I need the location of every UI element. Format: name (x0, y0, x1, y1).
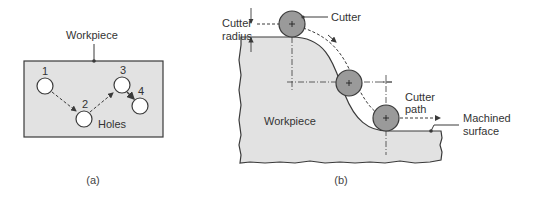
cutter-label: Cutter (331, 11, 361, 23)
hole-3-label: 3 (120, 64, 126, 76)
hole-2-label: 2 (82, 98, 88, 110)
cutter-path-arrow (328, 35, 336, 42)
hole-4-label: 4 (138, 85, 144, 97)
cutter-radius-label-2: radius (222, 30, 252, 42)
cutter-path-label-1: Cutter (405, 91, 435, 103)
cutter-2 (336, 70, 362, 96)
panel-b: Cutter Cutter radius Workpiece Cutter pa… (222, 8, 511, 186)
hole-2 (76, 111, 92, 127)
cutter-path-label-2: path (405, 103, 426, 115)
workpiece-label-b: Workpiece (264, 115, 316, 127)
caption-b: (b) (334, 174, 347, 186)
workpiece-label: Workpiece (66, 29, 118, 41)
panel-a: Workpiece 1 2 3 4 Holes (a) (24, 29, 163, 186)
cutter-1 (279, 11, 305, 37)
cutter-3 (373, 105, 399, 131)
hole-1-label: 1 (42, 65, 48, 77)
machined-surface-label-2: surface (463, 125, 499, 137)
hole-1 (37, 78, 53, 94)
cutter-radius-label-1: Cutter (222, 17, 252, 29)
hole-4 (132, 98, 148, 114)
leader-dot (92, 59, 96, 63)
hole-3 (114, 77, 130, 93)
diagram-canvas: Workpiece 1 2 3 4 Holes (a) (0, 0, 533, 199)
caption-a: (a) (86, 174, 99, 186)
machined-surface-leader (431, 125, 459, 131)
machined-surface-dot (429, 129, 433, 133)
cutter-leader-dot (301, 15, 304, 18)
holes-label: Holes (98, 118, 127, 130)
machined-surface-label-1: Machined (463, 112, 511, 124)
